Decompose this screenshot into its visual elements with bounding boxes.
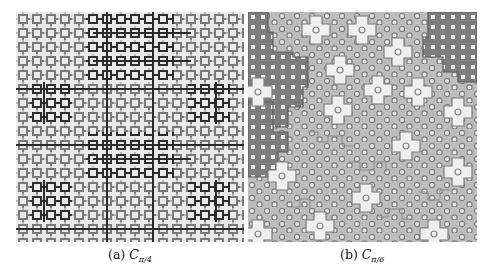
- caption-b-symbol: C: [362, 247, 372, 262]
- figure: (a)Cπ/4 (b)Cπ/6: [0, 0, 492, 271]
- caption-b-label: (b): [340, 247, 358, 262]
- panel-a-tiling: [16, 12, 244, 242]
- aperiodic-tiling-graphic: [248, 12, 477, 242]
- panel-b-tiling: [248, 12, 477, 242]
- caption-a: (a)Cπ/4: [108, 247, 152, 268]
- caption-b: (b)Cπ/6: [340, 247, 384, 268]
- caption-b-subscript: π/6: [371, 255, 384, 264]
- caption-a-subscript: π/4: [139, 255, 152, 264]
- square-tiling-graphic: [16, 12, 244, 242]
- caption-a-symbol: C: [129, 247, 139, 262]
- caption-a-label: (a): [108, 247, 125, 262]
